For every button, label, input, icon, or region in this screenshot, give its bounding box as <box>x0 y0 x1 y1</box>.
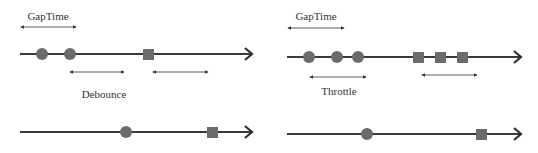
output-timeline <box>287 128 521 140</box>
event-circle <box>64 48 76 60</box>
event-circle <box>303 51 315 63</box>
debounce-label: Debounce <box>82 88 127 100</box>
event-circle <box>120 126 132 138</box>
output-timeline <box>20 126 252 138</box>
event-square <box>476 129 487 140</box>
event-square <box>457 52 468 63</box>
event-square <box>143 49 154 60</box>
event-circle <box>361 128 373 140</box>
throttle-panel: GapTime Throttle <box>287 10 521 140</box>
event-circle <box>331 51 343 63</box>
throttle-label: Throttle <box>321 85 357 97</box>
event-square <box>435 52 446 63</box>
event-circle <box>36 48 48 60</box>
event-circle <box>352 51 364 63</box>
event-square <box>413 52 424 63</box>
event-square <box>207 127 218 138</box>
input-timeline <box>287 51 521 63</box>
gaptime-label: GapTime <box>27 10 68 22</box>
debounce-throttle-diagram: GapTime Debounce GapTime <box>0 0 538 153</box>
debounce-panel: GapTime Debounce <box>20 10 252 138</box>
input-timeline <box>20 48 252 60</box>
gaptime-label: GapTime <box>295 10 336 22</box>
